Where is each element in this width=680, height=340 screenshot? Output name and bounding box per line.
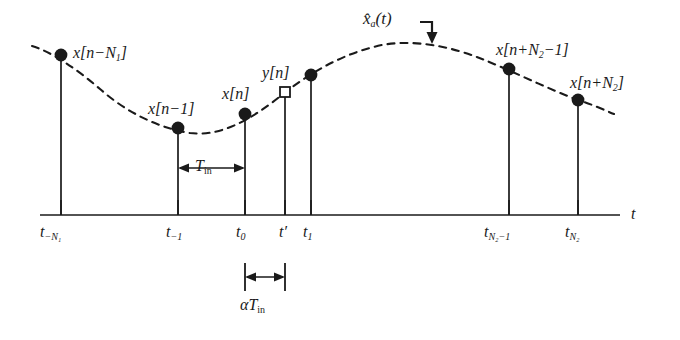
marker-sample-left (55, 49, 68, 62)
tick-label-n2: tN₂ (565, 224, 580, 242)
label-alpha-tin: αTin (240, 297, 265, 315)
tick-label-1: t1 (303, 224, 312, 242)
tick-label-neg-n1: t−N₁ (40, 224, 61, 242)
label-sample-prev: x[n−1] (148, 101, 194, 117)
marker-sample-right2 (572, 94, 585, 107)
curve-pointer-arrow (420, 22, 438, 44)
marker-sample-n (239, 108, 252, 121)
tick-label-n2m1: tN₂−1 (484, 224, 510, 242)
marker-sample-right1 (503, 63, 516, 76)
marker-sample-prev (172, 122, 185, 135)
label-sample-right1: x[n+N2−1] (496, 42, 569, 60)
tick-label-neg-1: t−1 (166, 224, 182, 242)
signal-interpolation-figure: x[n−N1] x[n−1] x[n] y[n] x[n+N2−1] x[n+N… (0, 0, 680, 340)
label-sample-left: x[n−N1] (73, 45, 127, 63)
label-sample-n: x[n] (222, 86, 250, 102)
label-tin: Tin (195, 158, 212, 176)
marker-sample-next (305, 69, 318, 82)
label-interpolated-curve: x̂a(t) (363, 10, 392, 29)
label-sample-right2: x[n+N2] (570, 75, 624, 93)
label-output-sample: y[n] (262, 65, 290, 81)
alpha-tin-measure-arrow (245, 263, 285, 291)
label-axis-t: t (631, 206, 635, 222)
tick-label-0: t0 (236, 224, 245, 242)
marker-output-sample (280, 87, 290, 97)
tick-label-prime: t′ (279, 224, 287, 240)
